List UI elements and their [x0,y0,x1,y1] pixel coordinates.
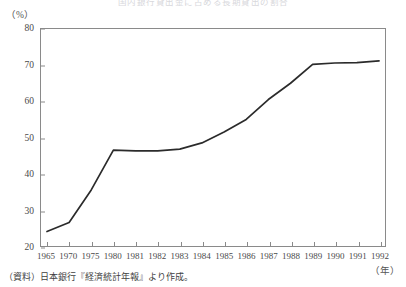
y-tick-label: 70 [0,60,34,70]
x-tick-mark [47,242,48,246]
y-tick-label: 20 [0,242,34,252]
x-tick-mark [181,242,182,246]
x-tick-label: 1975 [82,251,100,261]
y-tick-mark [41,248,45,249]
x-tick-mark [247,242,248,246]
x-tick-label: 1980 [104,251,122,261]
x-tick-label: 1985 [215,251,233,261]
x-tick-label: 1981 [126,251,144,261]
x-tick-label: 1986 [237,251,255,261]
line-series-svg [41,29,385,246]
y-tick-label: 30 [0,206,34,216]
y-tick-mark [41,29,45,30]
y-tick-label: 40 [0,169,34,179]
x-tick-mark [158,242,159,246]
x-tick-mark [270,242,271,246]
y-tick-mark [41,65,45,66]
x-tick-mark [92,242,93,246]
chart-title: 国内銀行貸出金に占める長期貸出の割合 [118,0,289,7]
y-tick-label: 60 [0,96,34,106]
x-tick-label: 1965 [37,251,55,261]
x-tick-mark [336,242,337,246]
y-axis-unit-label: （%） [6,7,34,21]
x-tick-label: 1989 [304,251,322,261]
x-tick-mark [136,242,137,246]
x-tick-mark [292,242,293,246]
x-tick-mark [359,242,360,246]
chart-figure: 国内銀行貸出金に占める長期貸出の割合 （%） （年） 2030405060708… [0,0,406,287]
y-tick-label: 50 [0,133,34,143]
y-tick-label: 80 [0,23,34,33]
x-tick-mark [314,242,315,246]
y-tick-mark [41,138,45,139]
x-tick-label: 1982 [148,251,166,261]
x-tick-label: 1991 [349,251,367,261]
source-note: （資料）日本銀行『経済統計年報』より作成。 [4,270,193,283]
x-tick-mark [381,242,382,246]
x-tick-mark [203,242,204,246]
x-tick-label: 1990 [326,251,344,261]
x-axis-unit-label: （年） [370,263,400,277]
plot-area [40,28,386,247]
y-tick-mark [41,102,45,103]
x-tick-label: 1988 [282,251,300,261]
x-tick-mark [225,242,226,246]
x-tick-label: 1983 [171,251,189,261]
x-tick-label: 1984 [193,251,211,261]
y-tick-mark [41,175,45,176]
x-tick-label: 1987 [260,251,278,261]
y-tick-mark [41,211,45,212]
series-line-long-term-lending [47,61,379,232]
chart-title-strip: 国内銀行貸出金に占める長期貸出の割合 [0,0,406,7]
x-tick-label: 1992 [371,251,389,261]
x-tick-label: 1970 [59,251,77,261]
x-tick-mark [114,242,115,246]
x-tick-mark [69,242,70,246]
